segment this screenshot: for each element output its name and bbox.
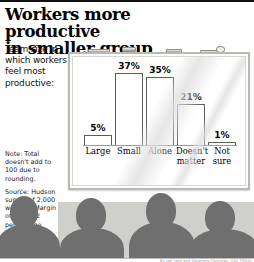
bar-large — [84, 135, 112, 145]
person-body — [129, 222, 195, 262]
title-line-1: Workers more productive — [5, 5, 130, 41]
bottom-rule: By Jae Yang and Alejandro Gonzalez, USA … — [0, 258, 254, 262]
bar-value-label: 5% — [90, 123, 105, 133]
bar-group-small: 37% — [114, 59, 144, 145]
x-label-alone: Alone — [145, 147, 175, 175]
x-label-line-2: matter — [176, 157, 206, 167]
bar-value-label: 37% — [118, 61, 140, 71]
bar-value-label: 21% — [180, 92, 202, 102]
bar-group-not-sure: 1% — [207, 59, 237, 145]
chart-subtitle: Team size in which workers feel most pro… — [5, 44, 67, 89]
person-head — [10, 196, 38, 228]
person-head — [76, 198, 106, 232]
infographic-panel: Workers more productive in smaller group… — [0, 0, 254, 262]
bar-value-label: 35% — [149, 65, 171, 75]
x-label-line-1: Large — [86, 146, 111, 156]
note-text: Note: Total doesn't add to 100 due to ro… — [5, 150, 63, 183]
x-label-line-1: Doesn't — [176, 146, 208, 156]
x-label-large: Large — [83, 147, 113, 175]
bar-chart: 5% 37% 35% 21% — [81, 65, 239, 177]
bar-group-large: 5% — [83, 59, 113, 145]
x-axis-labels: Large Small Alone Doesn't matter — [83, 147, 237, 175]
x-label-line-2: sure — [207, 157, 237, 167]
bar-group-doesnt-matter: 21% — [176, 59, 206, 145]
whiteboard: 5% 37% 35% 21% — [68, 52, 250, 190]
audience-silhouettes: By Jae Yang and Alejandro Gonzalez, USA … — [0, 188, 254, 262]
bar-alone — [146, 77, 174, 145]
x-label-line-1: Not — [214, 146, 230, 156]
person-head — [146, 193, 176, 228]
bar-doesnt-matter — [177, 104, 205, 145]
bar-not-sure — [208, 142, 236, 145]
bar-small — [115, 73, 143, 145]
bar-value-label: 1% — [214, 130, 229, 140]
bar-group-alone: 35% — [145, 59, 175, 145]
x-label-doesnt-matter: Doesn't matter — [176, 147, 206, 175]
x-label-not-sure: Not sure — [207, 147, 237, 175]
x-label-line-1: Small — [117, 146, 141, 156]
x-label-small: Small — [114, 147, 144, 175]
whiteboard-surface: 5% 37% 35% 21% — [72, 56, 246, 186]
person-body — [60, 228, 124, 262]
person-head — [205, 201, 235, 234]
x-label-line-1: Alone — [148, 146, 172, 156]
person-body — [0, 224, 60, 262]
bar-series: 5% 37% 35% 21% — [83, 59, 237, 145]
chart-subtitle-block: Team size in which workers feel most pro… — [5, 44, 67, 89]
